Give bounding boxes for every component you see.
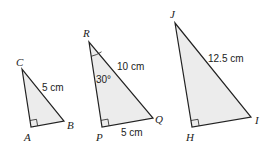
triangle-pqr: R P Q 10 cm 5 cm 30° — [82, 27, 163, 143]
angle-label-r: 30° — [96, 74, 111, 85]
vertex-label-h: H — [185, 131, 195, 143]
vertex-label-a: A — [23, 131, 31, 143]
triangles-diagram: C A B 5 cm R P Q 10 cm 5 cm 30° J H I 12… — [0, 0, 267, 149]
hypotenuse-label-hij: 12.5 cm — [208, 53, 244, 64]
vertex-label-r: R — [82, 27, 90, 39]
diagram-canvas: C A B 5 cm R P Q 10 cm 5 cm 30° J H I 12… — [0, 0, 267, 149]
base-label-pqr: 5 cm — [121, 127, 143, 138]
triangle-hij-shape — [175, 23, 251, 127]
triangle-abc-shape — [22, 69, 64, 127]
vertex-label-q: Q — [155, 113, 163, 125]
hypotenuse-label-abc: 5 cm — [42, 82, 64, 93]
vertex-label-j: J — [170, 8, 176, 20]
vertex-label-c: C — [16, 56, 24, 68]
vertex-label-b: B — [67, 119, 74, 131]
vertex-label-i: I — [254, 114, 260, 126]
triangle-hij: J H I 12.5 cm — [170, 8, 260, 143]
hypotenuse-label-pqr: 10 cm — [117, 61, 144, 72]
triangle-abc: C A B 5 cm — [16, 56, 74, 143]
vertex-label-p: P — [95, 131, 103, 143]
